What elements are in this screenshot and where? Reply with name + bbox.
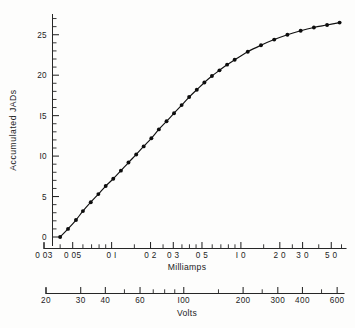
data-point-marker bbox=[127, 161, 131, 165]
volts-axis-title: Volts bbox=[177, 308, 197, 318]
data-curve-line bbox=[60, 23, 339, 237]
volts-tick-label: 200 bbox=[236, 296, 251, 305]
milliamps-tick-label: 0 03 bbox=[35, 251, 52, 260]
volts-tick-label: 60 bbox=[135, 296, 145, 305]
volts-tick-label: 30 bbox=[76, 296, 86, 305]
data-point-marker bbox=[111, 177, 115, 181]
data-point-marker bbox=[89, 200, 93, 204]
data-point-marker bbox=[134, 153, 138, 157]
y-tick-label: 20 bbox=[37, 71, 47, 80]
y-axis-title: Accumulated JADs bbox=[8, 89, 18, 170]
data-point-marker bbox=[180, 103, 184, 107]
volts-tick-label: 40 bbox=[100, 296, 110, 305]
data-series-accumulated-jads bbox=[58, 21, 341, 239]
data-point-marker bbox=[187, 95, 191, 99]
milliamps-tick-label: 2 0 bbox=[274, 251, 287, 260]
data-point-marker bbox=[202, 81, 206, 85]
data-point-marker bbox=[172, 111, 176, 115]
y-axis: 05I0I52025 bbox=[37, 15, 59, 246]
volts-tick-label: I00 bbox=[178, 296, 191, 305]
data-point-marker bbox=[210, 74, 214, 78]
data-point-marker bbox=[338, 21, 342, 25]
milliamps-tick-label: 5 0 bbox=[325, 251, 338, 260]
volts-tick-label: 20 bbox=[41, 296, 51, 305]
data-point-marker bbox=[66, 227, 70, 231]
data-point-marker bbox=[233, 58, 237, 62]
data-point-marker bbox=[195, 88, 199, 92]
milliamps-tick-label: 3 0 bbox=[296, 251, 309, 260]
chart-canvas: 05I0I52025 0 030 050 I0 20 30 5I 02 03 0… bbox=[0, 0, 355, 328]
data-point-marker bbox=[119, 169, 123, 173]
data-point-marker bbox=[81, 209, 85, 213]
data-point-marker bbox=[96, 192, 100, 196]
volts-tick-label: 600 bbox=[330, 296, 345, 305]
milliamps-tick-label: 0 3 bbox=[167, 251, 180, 260]
axis-labels: MilliampsVoltsAccumulated JADs bbox=[8, 89, 206, 318]
data-point-marker bbox=[272, 38, 276, 42]
data-point-marker bbox=[285, 33, 289, 37]
volts-tick-label: 400 bbox=[295, 296, 310, 305]
milliamps-tick-label: I 0 bbox=[236, 251, 246, 260]
milliamps-axis-title: Milliamps bbox=[168, 262, 207, 272]
y-tick-label: 5 bbox=[42, 193, 47, 202]
data-point-marker bbox=[104, 184, 108, 188]
data-point-marker bbox=[259, 43, 263, 47]
data-point-marker bbox=[74, 218, 78, 222]
data-point-marker bbox=[299, 29, 303, 33]
data-point-marker bbox=[325, 23, 329, 27]
x-axis-milliamps: 0 030 050 I0 20 30 5I 02 03 05 0 bbox=[35, 242, 346, 260]
data-point-marker bbox=[312, 26, 316, 30]
data-point-marker bbox=[218, 68, 222, 72]
y-tick-label: I0 bbox=[39, 152, 47, 161]
y-tick-label: 0 bbox=[42, 233, 47, 242]
data-point-marker bbox=[157, 127, 161, 131]
x-axis-volts: 20304060I00200300400600 bbox=[41, 287, 345, 305]
milliamps-tick-label: 0 5 bbox=[196, 251, 209, 260]
data-point-marker bbox=[246, 50, 250, 54]
data-point-marker bbox=[142, 144, 146, 148]
data-point-marker bbox=[165, 119, 169, 123]
y-tick-label: I5 bbox=[39, 112, 47, 121]
volts-tick-label: 300 bbox=[270, 296, 285, 305]
milliamps-tick-label: 0 2 bbox=[144, 251, 157, 260]
y-tick-label: 25 bbox=[37, 31, 47, 40]
milliamps-tick-label: 0 05 bbox=[64, 251, 81, 260]
milliamps-tick-label: 0 I bbox=[107, 251, 117, 260]
data-point-marker bbox=[58, 235, 62, 239]
data-point-marker bbox=[149, 136, 153, 140]
chart-figure: 05I0I52025 0 030 050 I0 20 30 5I 02 03 0… bbox=[0, 0, 355, 328]
data-point-marker bbox=[225, 63, 229, 67]
